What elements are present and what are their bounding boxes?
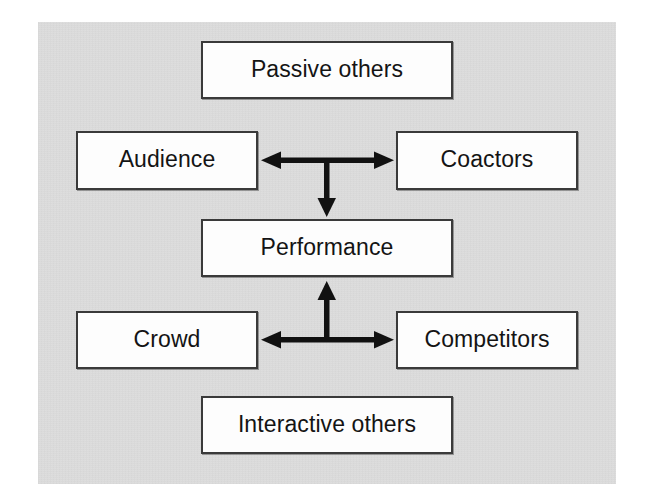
- node-audience-label: Audience: [119, 148, 216, 171]
- node-audience[interactable]: Audience: [76, 131, 258, 190]
- node-coactors-label: Coactors: [441, 148, 534, 171]
- figure-root: Passive others Audience Coactors Perform…: [0, 0, 646, 501]
- node-coactors[interactable]: Coactors: [396, 131, 578, 190]
- node-passive-others-label: Passive others: [251, 58, 403, 81]
- node-competitors-label: Competitors: [424, 328, 549, 351]
- node-performance[interactable]: Performance: [201, 219, 453, 277]
- node-interactive-others-label: Interactive others: [238, 413, 416, 436]
- node-performance-label: Performance: [261, 236, 394, 259]
- node-crowd-label: Crowd: [134, 328, 201, 351]
- node-interactive-others[interactable]: Interactive others: [201, 396, 453, 454]
- node-crowd[interactable]: Crowd: [76, 311, 258, 369]
- node-passive-others[interactable]: Passive others: [201, 41, 453, 99]
- node-competitors[interactable]: Competitors: [396, 311, 578, 369]
